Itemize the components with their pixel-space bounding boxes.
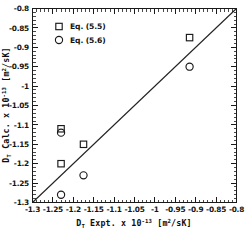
data-point-square — [58, 161, 64, 167]
y-tick-label: -0.95 — [9, 62, 29, 71]
y-tick-label: -1.05 — [9, 101, 29, 110]
x-tick-label: -0.9 — [188, 205, 203, 214]
x-tick-label: -1.15 — [84, 205, 104, 214]
x-axis-title-units: [m — [152, 218, 167, 228]
series-2 — [57, 63, 193, 198]
data-point-square — [186, 34, 192, 40]
data-point-circle — [80, 172, 87, 179]
y-tick-label: -1.2 — [14, 159, 29, 168]
y-tick-label: -1.25 — [9, 179, 29, 188]
y-axis-title-units: [m — [1, 71, 11, 86]
y-axis-title-units-tail: /sK] — [1, 47, 11, 68]
y-axis-title-exponent: -13 — [1, 87, 7, 98]
chart-legend: Eq. (5.5)Eq. (5.6) — [55, 22, 105, 45]
x-tick-label: -1.1 — [107, 205, 122, 214]
y-tick-label: -0.8 — [14, 4, 29, 13]
data-point-square — [80, 141, 86, 147]
y-tick-label: -1 — [21, 82, 29, 91]
y-tick-label: -1.15 — [9, 140, 29, 149]
y-tick-label: -0.85 — [9, 24, 29, 33]
data-point-circle — [57, 191, 64, 198]
series-1 — [58, 34, 193, 167]
x-axis-title-exponent: -13 — [142, 218, 153, 224]
legend-label: Eq. (5.6) — [70, 36, 106, 45]
data-point-circle — [57, 129, 64, 136]
x-axis-tick-labels: -1.3-1.25-1.2-1.15-1.1-1.05-1-0.95-0.9-0… — [25, 205, 244, 214]
x-tick-label: -0.95 — [165, 205, 185, 214]
legend-circle-marker — [55, 36, 62, 43]
x-axis-title-units-tail: /sK] — [171, 218, 192, 228]
x-axis-title-name: Expt. x 10 — [85, 218, 142, 228]
x-tick-label: -1 — [151, 205, 159, 214]
y-axis-title-name: Calc. x 10 — [1, 97, 11, 154]
x-tick-label: -1.25 — [43, 205, 63, 214]
y-axis-title: DT Calc. x 10-13 [m2/sK] — [1, 47, 13, 162]
y-tick-label: -0.9 — [14, 43, 29, 52]
data-point-circle — [186, 63, 193, 70]
x-tick-label: -0.85 — [206, 205, 226, 214]
y-tick-label: -1.3 — [14, 198, 29, 207]
legend-square-marker — [56, 23, 62, 29]
x-tick-label: -1.2 — [66, 205, 81, 214]
x-tick-label: -1.05 — [124, 205, 144, 214]
y-tick-label: -1.1 — [14, 121, 29, 130]
legend-label: Eq. (5.5) — [70, 22, 106, 31]
x-tick-label: -0.8 — [229, 205, 244, 214]
parity-line — [33, 9, 237, 203]
scatter-plot: -1.3-1.25-1.2-1.15-1.1-1.05-1-0.95-0.9-0… — [0, 0, 248, 230]
x-axis-title: DT Expt. x 10-13 [m2/sK] — [76, 218, 191, 230]
data-series-group — [57, 34, 193, 198]
parity-reference-line — [33, 9, 237, 203]
chart-figure: -1.3-1.25-1.2-1.15-1.1-1.05-1-0.95-0.9-0… — [0, 0, 248, 230]
y-axis-tick-labels: -1.3-1.25-1.2-1.15-1.1-1.05-1-0.95-0.9-0… — [9, 4, 29, 207]
